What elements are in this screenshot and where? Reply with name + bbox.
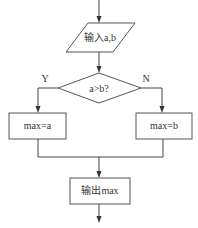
input-label: 输入a,b bbox=[84, 31, 116, 43]
no-branch: N bbox=[141, 73, 165, 113]
output-label: 输出max bbox=[81, 184, 118, 196]
input-node: 输入a,b bbox=[66, 23, 135, 52]
decision-node: a>b? bbox=[58, 73, 141, 103]
yes-label: Y bbox=[41, 73, 48, 84]
entry-arrow bbox=[97, 0, 102, 23]
decision-label: a>b? bbox=[89, 83, 109, 94]
merge-lines bbox=[38, 139, 163, 178]
no-label: N bbox=[142, 73, 149, 84]
assign-a-label: max=a bbox=[24, 120, 52, 131]
assign-b-node: max=b bbox=[136, 113, 192, 139]
arrow-input-to-decision bbox=[97, 52, 102, 73]
flowchart: 输入a,b a>b? Y N max=a max=b 输出ma bbox=[0, 0, 198, 228]
output-node: 输出max bbox=[70, 178, 130, 204]
exit-arrow bbox=[97, 204, 102, 223]
assign-b-label: max=b bbox=[150, 120, 178, 131]
assign-a-node: max=a bbox=[9, 113, 66, 139]
yes-branch: Y bbox=[36, 73, 59, 113]
